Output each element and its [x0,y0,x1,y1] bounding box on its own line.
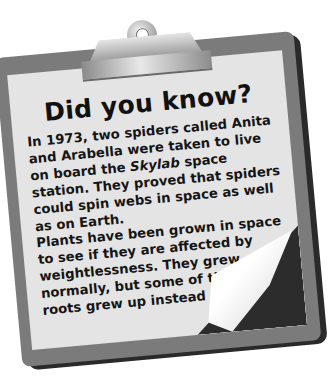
clipboard-clip-icon [78,14,212,78]
clipboard-paper: Did you know? In 1973, two spiders calle… [7,50,307,350]
did-you-know-illustration: Did you know? In 1973, two spiders calle… [0,0,330,378]
fact-emphasis: Skylab [129,155,180,174]
clipboard-board: Did you know? In 1973, two spiders calle… [0,31,321,367]
clipboard: Did you know? In 1973, two spiders calle… [0,31,321,367]
